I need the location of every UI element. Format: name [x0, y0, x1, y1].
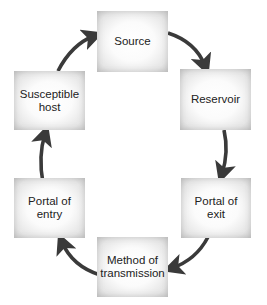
node-label: Reservoir [191, 93, 240, 106]
node-label: Susceptible host [20, 88, 79, 114]
arrow-method-of-transmission-to-portal-of-entry [62, 242, 100, 275]
node-source: Source [97, 11, 168, 72]
node-label: Source [114, 35, 150, 48]
node-susceptible-host: Susceptible host [14, 71, 85, 130]
node-label: Method of transmission [100, 254, 165, 280]
arrow-portal-of-exit-to-method-of-transmission [172, 237, 208, 268]
arrow-susceptible-host-to-source [58, 36, 94, 71]
node-label: Portal of entry [28, 195, 71, 221]
node-portal-of-entry: Portal of entry [14, 178, 85, 238]
arrow-portal-of-entry-to-susceptible-host [41, 134, 45, 183]
node-method-of-transmission: Method of transmission [97, 237, 168, 297]
arrow-reservoir-to-portal-of-exit [222, 130, 226, 174]
node-portal-of-exit: Portal of exit [181, 178, 251, 238]
arrow-source-to-reservoir [168, 33, 205, 66]
node-label: Portal of exit [195, 195, 238, 221]
chain-of-infection-diagram: Source Reservoir Portal of exit Method o… [0, 0, 267, 305]
node-reservoir: Reservoir [180, 69, 251, 130]
